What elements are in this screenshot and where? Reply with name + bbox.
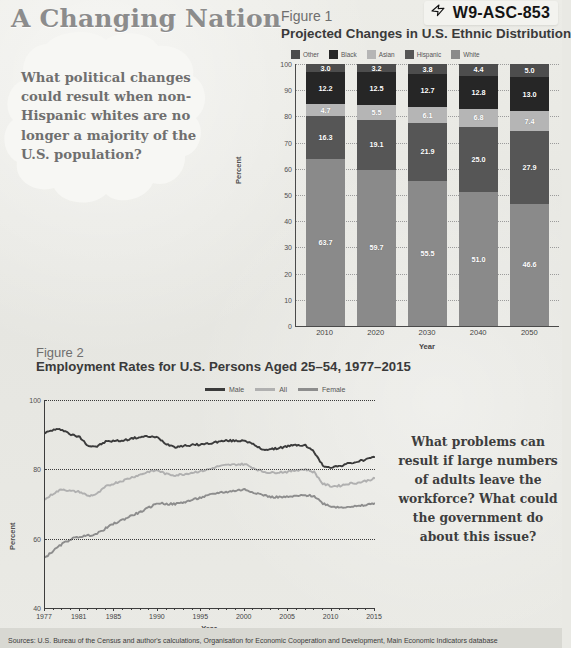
legend-item-white: White bbox=[451, 50, 479, 59]
line-series-male bbox=[45, 429, 375, 468]
x-minor-tick bbox=[357, 608, 358, 610]
gridline bbox=[45, 400, 375, 401]
x-tick-label: 2030 bbox=[407, 328, 447, 337]
legend-label: Other bbox=[303, 51, 319, 58]
legend-line-icon bbox=[255, 388, 275, 391]
x-minor-tick bbox=[244, 608, 245, 610]
y-tick-label: 10 bbox=[284, 296, 292, 303]
legend-item-hispanic: Hispanic bbox=[405, 50, 442, 59]
x-minor-tick bbox=[157, 608, 158, 610]
figure-1-number: Figure 1 bbox=[281, 8, 332, 24]
bar-column: 3.812.76.121.955.5 bbox=[408, 64, 448, 326]
bar-column: 3.012.24.716.363.7 bbox=[306, 64, 346, 326]
x-minor-tick bbox=[44, 608, 45, 610]
x-minor-tick bbox=[148, 608, 149, 610]
figure-1-plot-area: 3.012.24.716.363.73.212.55.519.159.73.81… bbox=[295, 64, 559, 327]
bar-segment-white: 46.6 bbox=[510, 204, 550, 326]
x-minor-tick bbox=[200, 608, 201, 610]
y-tick-label: 0 bbox=[288, 323, 292, 330]
legend-label: Black bbox=[341, 51, 357, 58]
figure-1-bars: 3.012.24.716.363.73.212.55.519.159.73.81… bbox=[296, 64, 559, 326]
y-tick-label: 50 bbox=[284, 192, 292, 199]
legend-swatch-icon bbox=[405, 50, 414, 59]
x-minor-tick bbox=[322, 608, 323, 610]
figure-2-number: Figure 2 bbox=[36, 345, 84, 360]
x-minor-tick bbox=[113, 608, 114, 610]
y-tick-label: 40 bbox=[284, 218, 292, 225]
x-minor-tick bbox=[252, 608, 253, 610]
figure-2-legend: MaleAllFemale bbox=[205, 386, 345, 393]
bar-column: 5.013.07.427.946.6 bbox=[510, 64, 550, 326]
figure-2-y-axis: 406080100 bbox=[0, 400, 44, 608]
legend-item-female: Female bbox=[298, 386, 345, 393]
x-minor-tick bbox=[348, 608, 349, 610]
x-minor-tick bbox=[305, 608, 306, 610]
x-minor-tick bbox=[166, 608, 167, 610]
x-minor-tick bbox=[313, 608, 314, 610]
x-minor-tick bbox=[296, 608, 297, 610]
figure-2-title: Employment Rates for U.S. Persons Aged 2… bbox=[36, 359, 411, 376]
bar-segment-black: 13.0 bbox=[510, 77, 550, 111]
bar-segment-black: 12.5 bbox=[357, 72, 397, 105]
legend-item-male: Male bbox=[205, 386, 244, 393]
x-minor-tick bbox=[192, 608, 193, 610]
bar-segment-black: 12.8 bbox=[459, 76, 499, 110]
thought-bubble: What political changes could result when… bbox=[0, 30, 218, 215]
y-tick-label: 100 bbox=[280, 61, 292, 68]
y-tick-label: 40 bbox=[33, 605, 41, 612]
sources-text: Sources: U.S. Bureau of the Census and a… bbox=[8, 637, 556, 644]
bar-segment-other: 3.8 bbox=[408, 64, 448, 74]
legend-label: Male bbox=[229, 386, 244, 393]
figure-2-plot-area bbox=[44, 400, 375, 609]
x-minor-tick bbox=[70, 608, 71, 610]
x-tick-label: 2040 bbox=[458, 328, 498, 337]
x-minor-tick bbox=[287, 608, 288, 610]
x-minor-tick bbox=[140, 608, 141, 610]
x-minor-tick bbox=[96, 608, 97, 610]
figure-2-chart: 406080100 Percent 1977198119851990199520… bbox=[0, 400, 400, 630]
bar-segment-hispanic: 21.9 bbox=[408, 123, 448, 180]
y-tick-label: 100 bbox=[29, 397, 41, 404]
figure-1-x-axis-title: Year bbox=[295, 342, 559, 351]
figure-1-chart: 1009080706050403020100 Percent 3.012.24.… bbox=[247, 64, 559, 364]
bubble-question-text: What political changes could result when… bbox=[21, 68, 201, 164]
figure-1-title: Projected Changes in U.S. Ethnic Distrib… bbox=[281, 26, 571, 41]
legend-swatch-icon bbox=[367, 50, 376, 59]
bar-segment-asian: 6.8 bbox=[459, 109, 499, 127]
pointing-hand-icon bbox=[430, 3, 446, 22]
bar-segment-white: 51.0 bbox=[459, 192, 499, 326]
y-tick-label: 80 bbox=[284, 113, 292, 120]
bar-segment-white: 63.7 bbox=[306, 159, 346, 326]
figure-2-y-axis-title: Percent bbox=[8, 522, 17, 550]
legend-item-other: Other bbox=[291, 50, 319, 59]
legend-item-asian: Asian bbox=[367, 50, 395, 59]
x-minor-tick bbox=[183, 608, 184, 610]
x-minor-tick bbox=[270, 608, 271, 610]
y-tick-label: 80 bbox=[33, 466, 41, 473]
legend-label: Asian bbox=[379, 51, 395, 58]
code-badge: W9-ASC-853 bbox=[424, 1, 558, 25]
gridline bbox=[45, 539, 375, 540]
x-tick-label: 2015 bbox=[366, 613, 382, 620]
figure-1-legend: OtherBlackAsianHispanicWhite bbox=[291, 50, 479, 59]
legend-label: Female bbox=[322, 386, 345, 393]
x-tick-label: 2010 bbox=[323, 613, 339, 620]
x-tick-label: 1977 bbox=[36, 613, 52, 620]
legend-line-icon bbox=[205, 388, 225, 391]
x-tick-label: 2005 bbox=[279, 613, 295, 620]
gridline bbox=[45, 469, 375, 470]
page-title: A Changing Nation bbox=[11, 4, 281, 33]
legend-line-icon bbox=[298, 388, 318, 391]
bar-segment-white: 55.5 bbox=[408, 181, 448, 326]
x-minor-tick bbox=[122, 608, 123, 610]
x-minor-tick bbox=[174, 608, 175, 610]
x-minor-tick bbox=[331, 608, 332, 610]
x-minor-tick bbox=[79, 608, 80, 610]
legend-swatch-icon bbox=[451, 50, 460, 59]
bar-segment-asian: 6.1 bbox=[408, 107, 448, 123]
legend-item-all: All bbox=[255, 386, 287, 393]
x-minor-tick bbox=[87, 608, 88, 610]
x-minor-tick bbox=[278, 608, 279, 610]
x-tick-label: 2010 bbox=[305, 328, 345, 337]
y-tick-label: 70 bbox=[284, 139, 292, 146]
